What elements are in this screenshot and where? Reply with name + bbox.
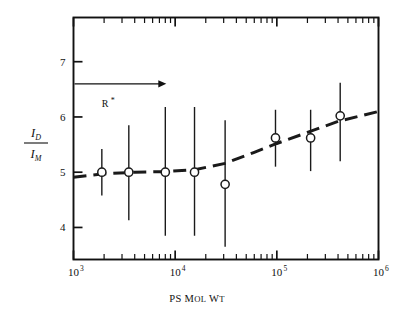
data-point-marker xyxy=(125,168,133,176)
svg-text:10: 10 xyxy=(170,266,182,278)
data-point-marker xyxy=(271,134,279,142)
y-tick-label: 6 xyxy=(60,111,66,123)
chart-svg: R* 103104105106 4567 PS MOL WT ID IM xyxy=(0,0,394,326)
data-point-marker xyxy=(161,168,169,176)
svg-text:10: 10 xyxy=(271,266,283,278)
r-star-asterisk: * xyxy=(111,96,115,105)
y-tick-label: 5 xyxy=(60,166,66,178)
svg-text:5: 5 xyxy=(283,264,287,273)
r-star-label: R xyxy=(102,98,109,109)
x-axis-title-text: PS MOL WT xyxy=(169,293,225,304)
x-axis-title: PS MOL WT xyxy=(169,293,225,304)
svg-text:10: 10 xyxy=(68,266,80,278)
y-tick-label: 4 xyxy=(60,221,66,233)
svg-text:4: 4 xyxy=(182,264,186,273)
data-point-marker xyxy=(190,168,198,176)
data-point-marker xyxy=(336,112,344,120)
data-point-marker xyxy=(98,168,106,176)
svg-text:10: 10 xyxy=(373,266,385,278)
chart-background xyxy=(0,0,394,326)
svg-text:3: 3 xyxy=(80,264,84,273)
data-point-marker xyxy=(221,180,229,188)
y-tick-label: 7 xyxy=(60,56,66,68)
data-point-marker xyxy=(307,134,315,142)
figure-container: R* 103104105106 4567 PS MOL WT ID IM xyxy=(0,0,394,326)
svg-text:6: 6 xyxy=(385,264,389,273)
